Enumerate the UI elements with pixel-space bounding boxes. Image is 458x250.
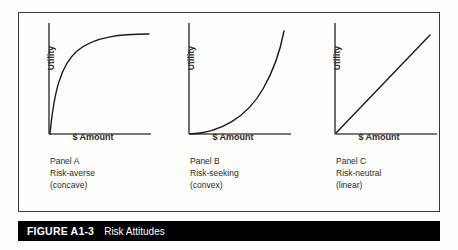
panel-b-plot: Utility $ Amount — [165, 13, 305, 141]
panel-c-x-axis-label: $ Amount — [327, 132, 431, 142]
panel-a-attitude: Risk-averse — [50, 167, 95, 179]
panel-c-shape: (linear) — [336, 179, 381, 191]
panel-c-attitude: Risk-neutral — [336, 167, 381, 179]
figure-risk-attitudes: Utility $ Amount Panel A Risk-averse (co… — [0, 0, 458, 250]
panel-a-concave-curve — [50, 34, 149, 134]
figure-caption-bar: FIGURE A1-3 Risk Attitudes — [18, 221, 440, 241]
panel-b-shape: (convex) — [190, 179, 239, 191]
panel-b-name: Panel B — [190, 155, 239, 167]
panel-c-name: Panel C — [336, 155, 381, 167]
panel-c-caption: Panel C Risk-neutral (linear) — [336, 155, 381, 192]
panel-b: Utility $ Amount Panel B Risk-seeking (c… — [165, 13, 305, 211]
panel-c-y-axis-label: Utility — [332, 28, 342, 88]
panel-b-y-axis-label: Utility — [186, 28, 196, 88]
panel-a-plot: Utility $ Amount — [25, 13, 165, 141]
panel-c-linear-line — [336, 35, 430, 133]
panel-a-caption: Panel A Risk-averse (concave) — [50, 155, 95, 192]
figure-title: Risk Attitudes — [104, 226, 165, 237]
panel-frame-border: Utility $ Amount Panel A Risk-averse (co… — [18, 12, 440, 212]
panel-b-convex-curve — [190, 31, 284, 134]
panel-a-name: Panel A — [50, 155, 95, 167]
panel-a-x-axis-label: $ Amount — [41, 132, 145, 142]
panel-c: Utility $ Amount Panel C Risk-neutral (l… — [311, 13, 451, 211]
panel-a-shape: (concave) — [50, 179, 95, 191]
panels-row: Utility $ Amount Panel A Risk-averse (co… — [19, 13, 439, 211]
panel-a-y-axis-label: Utility — [46, 28, 56, 88]
panel-b-x-axis-label: $ Amount — [181, 132, 285, 142]
panel-b-caption: Panel B Risk-seeking (convex) — [190, 155, 239, 192]
panel-b-attitude: Risk-seeking — [190, 167, 239, 179]
panel-a: Utility $ Amount Panel A Risk-averse (co… — [25, 13, 165, 211]
panel-c-plot: Utility $ Amount — [311, 13, 451, 141]
figure-number: FIGURE A1-3 — [27, 225, 94, 237]
